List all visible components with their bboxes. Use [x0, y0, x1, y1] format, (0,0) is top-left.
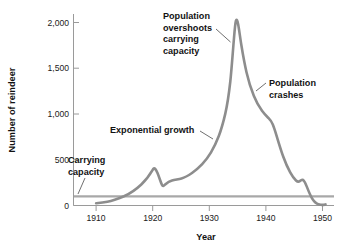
- annotation-population-overshoots-line-3: carrying: [163, 34, 199, 44]
- x-tick-label-1910: 1910: [87, 213, 106, 223]
- x-tick-label-1930: 1930: [200, 213, 219, 223]
- y-tick-label-1500: 1,500: [47, 63, 69, 73]
- annotation-exponential-growth-line-1: Exponential growth: [110, 125, 194, 135]
- x-tick-label-1950: 1950: [313, 213, 332, 223]
- x-axis-title: Year: [196, 232, 216, 242]
- y-tick-label-1000: 1,000: [47, 109, 69, 119]
- y-tick-label-0: 0: [64, 201, 69, 211]
- annotation-population-overshoots-line-1: Population: [163, 11, 210, 21]
- annotation-carrying-capacity-line-1: Carrying: [68, 155, 105, 165]
- annotation-population-crashes-line-2: crashes: [269, 90, 303, 100]
- y-tick-label-2000: 2,000: [47, 18, 69, 28]
- annotation-carrying-capacity-line-2: capacity: [68, 167, 105, 177]
- annotation-population-overshoots-line-2: overshoots: [163, 23, 212, 33]
- x-tick-label-1940: 1940: [256, 213, 275, 223]
- x-tick-label-1920: 1920: [143, 213, 162, 223]
- reindeer-population-chart: 2,000 1,500 1,000 500 0 1910 1920 1930 1…: [0, 0, 342, 251]
- y-axis-title: Number of reindeer: [7, 67, 17, 152]
- annotation-population-overshoots-line-4: capacity: [163, 46, 200, 56]
- chart-figure: 2,000 1,500 1,000 500 0 1910 1920 1930 1…: [0, 0, 342, 251]
- annotation-population-crashes-line-1: Population: [269, 78, 316, 88]
